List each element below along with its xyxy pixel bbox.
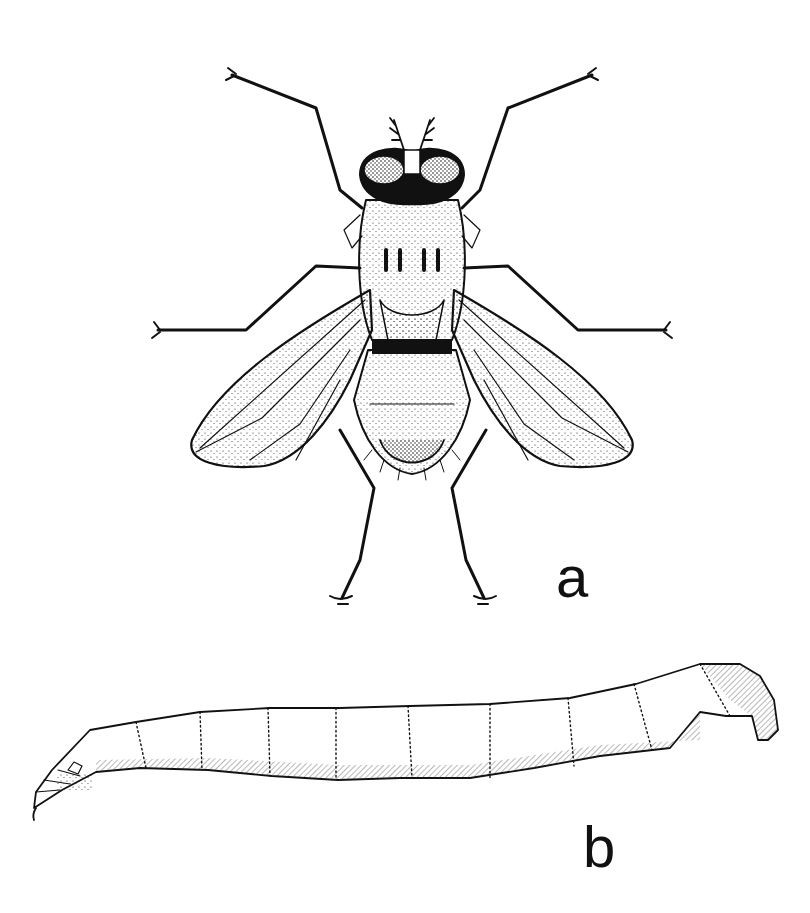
panel-label-a: a bbox=[556, 548, 588, 606]
fly-drawing bbox=[152, 68, 672, 604]
abdomen bbox=[354, 340, 470, 480]
front-right-leg bbox=[462, 68, 598, 208]
illustration-canvas bbox=[0, 0, 810, 913]
head bbox=[360, 118, 464, 204]
scientific-illustration: a b bbox=[0, 0, 810, 913]
front-left-leg bbox=[226, 68, 362, 208]
panel-label-b: b bbox=[583, 818, 615, 876]
thorax bbox=[344, 200, 480, 340]
larva-drawing bbox=[33, 664, 778, 820]
hind-right-leg bbox=[452, 430, 496, 604]
